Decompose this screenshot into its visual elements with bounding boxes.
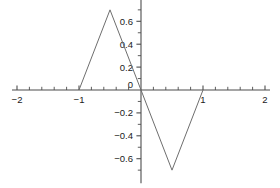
triangle-wave-plot: −2−1120.60.40.2−0.2−0.4−0.60 xyxy=(0,0,280,188)
y-tick-label: −0.6 xyxy=(114,153,133,164)
y-tick-label: 0.6 xyxy=(120,16,133,27)
x-tick-label: −2 xyxy=(12,94,23,105)
x-tick-label: 2 xyxy=(262,94,267,105)
origin-label: 0 xyxy=(128,79,133,90)
y-axis: 0.60.40.2−0.2−0.4−0.60 xyxy=(114,0,141,183)
y-tick-label: −0.4 xyxy=(114,130,133,141)
x-tick-label: −1 xyxy=(74,94,85,105)
y-tick-label: −0.2 xyxy=(114,107,133,118)
chart-container: −2−1120.60.40.2−0.2−0.4−0.60 xyxy=(0,0,280,188)
